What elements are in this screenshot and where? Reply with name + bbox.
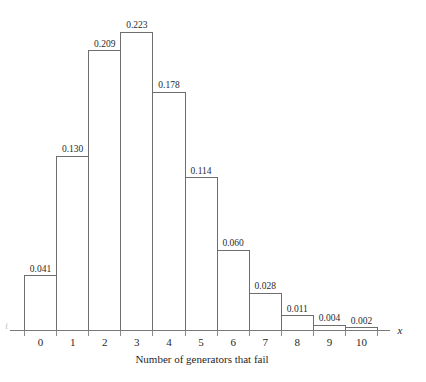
bar-value-label: 0.028 <box>255 281 277 291</box>
bars-group <box>25 32 378 331</box>
histogram-bar <box>121 32 153 331</box>
axis-tick-labels-group: 012345678910 <box>38 336 368 348</box>
bar-value-label: 0.011 <box>287 304 308 314</box>
axis-tick-label: 8 <box>295 336 301 348</box>
x-axis-variable-label: x <box>397 324 403 336</box>
histogram-plot: 0.0410.1300.2090.2230.1780.1140.0600.028… <box>0 0 426 382</box>
axis-tick-label: 2 <box>102 336 108 348</box>
probability-histogram-figure: f 0.0410.1300.2090.2230.1780.1140.0600.0… <box>0 0 426 382</box>
axis-tick-label: 4 <box>166 336 172 348</box>
axis-tick-label: 9 <box>327 336 333 348</box>
axis-tick-label: 10 <box>356 336 368 348</box>
histogram-bar <box>281 316 313 331</box>
bar-value-label: 0.060 <box>222 238 244 248</box>
bar-value-label: 0.178 <box>158 80 180 90</box>
histogram-bar <box>249 293 281 330</box>
axis-tick-label: 6 <box>230 336 236 348</box>
histogram-bar <box>217 250 249 330</box>
histogram-bar <box>185 178 217 331</box>
histogram-bar <box>25 276 57 331</box>
axis-tick-label: 3 <box>134 336 140 348</box>
histogram-bar <box>89 51 121 331</box>
axis-tick-label: 5 <box>198 336 204 348</box>
bar-value-label: 0.130 <box>62 144 84 154</box>
bar-value-label: 0.209 <box>94 39 116 49</box>
histogram-bar <box>57 156 89 330</box>
bar-value-label: 0.223 <box>126 20 148 30</box>
bar-value-label: 0.041 <box>30 264 52 274</box>
bar-value-label: 0.114 <box>191 166 212 176</box>
axis-tick-label: 0 <box>38 336 44 348</box>
x-axis-title: Number of generators that fail <box>135 353 268 365</box>
bar-value-label: 0.002 <box>351 316 373 326</box>
axis-tick-label: 1 <box>70 336 76 348</box>
bar-value-label: 0.004 <box>319 313 341 323</box>
histogram-bar <box>153 92 185 330</box>
axis-tick-label: 7 <box>263 336 269 348</box>
histogram-bar <box>313 325 345 330</box>
